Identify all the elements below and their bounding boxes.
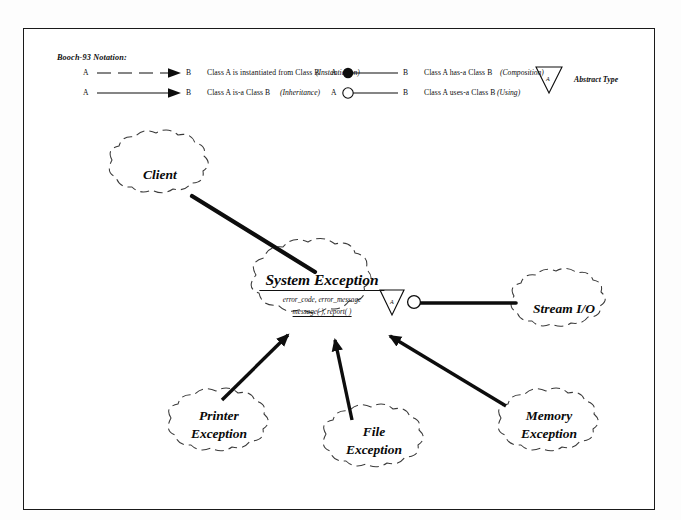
class-name-printer-exception-line1: Printer: [191, 408, 247, 424]
abstract-marker-letter: A: [390, 299, 394, 305]
legend-symbol-using: [343, 88, 398, 98]
link-memory-exception-to-system-exception: [390, 336, 506, 406]
class-name-stream-io: Stream I/O: [533, 301, 595, 316]
legend-row-0-from: A: [83, 69, 88, 77]
class-label-file-exception: File Exception: [346, 424, 402, 458]
link-client-to-system-exception: [192, 196, 315, 272]
legend-row-0-description: Class A is instantiated from Class B: [207, 69, 319, 77]
legend-title: Booch-93 Notation:: [57, 54, 127, 62]
legend-row-0-kind: (Instantiation): [316, 69, 360, 77]
class-name-memory-exception-line2: Exception: [521, 426, 577, 442]
legend-row-2-description: Class A has-a Class B: [424, 69, 492, 77]
legend-row-1-description: Class A is-a Class B: [207, 89, 270, 97]
legend-row-3-from: A: [331, 89, 336, 97]
class-label-stream-io: Stream I/O: [533, 299, 595, 317]
class-name-file-exception-line2: Exception: [346, 442, 402, 458]
class-operations-system-exception: message( ), report( ): [293, 300, 352, 318]
legend-abstract-marker: A: [546, 76, 550, 82]
legend-row-1-kind: (Inheritance): [280, 89, 320, 97]
cloud-stream-io: [511, 268, 605, 326]
link-system-exception-to-stream-io: [408, 296, 516, 309]
legend-symbol-instantiation: [97, 68, 181, 78]
legend-row-0-to: B: [186, 69, 191, 77]
legend-row-3-to: B: [403, 89, 408, 97]
class-name-client: Client: [143, 167, 177, 182]
class-operations-text: message( ), report( ): [293, 308, 352, 317]
legend-symbol-inheritance: [97, 88, 181, 98]
legend-row-2-kind: (Composition): [500, 69, 544, 77]
legend-row-3-kind: (Using): [497, 89, 520, 97]
legend-row-1-to: B: [186, 89, 191, 97]
class-name-memory-exception-line1: Memory: [521, 408, 577, 424]
class-name-printer-exception-line2: Exception: [191, 426, 247, 442]
legend-abstract-type-label: Abstract Type: [574, 76, 618, 84]
legend-row-3-description: Class A uses-a Class B: [424, 89, 495, 97]
legend-row-2-from: A: [331, 69, 336, 77]
link-printer-exception-to-system-exception: [222, 335, 288, 400]
class-label-printer-exception: Printer Exception: [191, 408, 247, 442]
class-label-memory-exception: Memory Exception: [521, 408, 577, 442]
cloud-client: [109, 130, 208, 193]
class-label-client: Client: [143, 165, 177, 183]
legend-row-1-from: A: [83, 89, 88, 97]
class-name-file-exception-line1: File: [346, 424, 402, 440]
legend-row-2-to: B: [403, 69, 408, 77]
link-file-exception-to-system-exception: [335, 340, 352, 420]
diagram-page: Booch-93 Notation: A B Class A is instan…: [0, 0, 681, 520]
